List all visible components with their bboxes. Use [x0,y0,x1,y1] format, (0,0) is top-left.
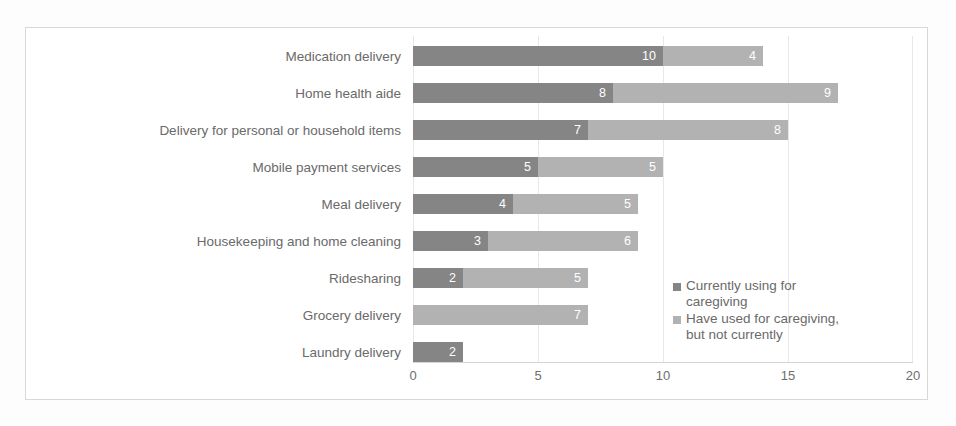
legend-label: Have used for caregiving, but not curren… [686,311,861,343]
chart-legend: Currently using for caregiving Have used… [673,278,873,344]
bar-stack: 2 [413,342,463,362]
bar-row: Home health aide 8 9 [413,83,913,103]
bar-value-label: 8 [599,87,613,100]
bar-value-label: 5 [649,161,663,174]
bar-stack: 10 4 [413,46,763,66]
x-tick-label-0: 0 [409,368,416,383]
legend-swatch-icon [673,283,681,291]
bar-segment-currently-using[interactable]: 7 [413,120,588,140]
bar-stack: 5 5 [413,157,663,177]
bar-row: Medication delivery 10 4 [413,46,913,66]
bar-segment-have-used[interactable]: 9 [613,83,838,103]
bar-row: Mobile payment services 5 5 [413,157,913,177]
bar-segment-have-used[interactable]: 6 [488,231,638,251]
bar-segment-currently-using[interactable]: 8 [413,83,613,103]
bar-segment-have-used[interactable]: 5 [538,157,663,177]
bar-stack: 2 5 [413,268,588,288]
bar-value-label: 4 [749,50,763,63]
bar-segment-have-used[interactable]: 7 [413,305,588,325]
x-tick-label-20: 20 [906,368,920,383]
bar-value-label: 4 [499,198,513,211]
bar-value-label: 5 [524,161,538,174]
bar-value-label: 7 [574,124,588,137]
legend-item-currently-using[interactable]: Currently using for caregiving [673,278,873,310]
bar-stack: 8 9 [413,83,838,103]
bar-value-label: 9 [824,87,838,100]
bar-value-label: 5 [624,198,638,211]
bar-row: Housekeeping and home cleaning 3 6 [413,231,913,251]
bar-row: Delivery for personal or household items… [413,120,913,140]
bar-row: Meal delivery 4 5 [413,194,913,214]
bar-segment-currently-using[interactable]: 10 [413,46,663,66]
bar-segment-have-used[interactable]: 5 [463,268,588,288]
bar-stack: 7 [413,305,588,325]
category-label: Laundry delivery [302,345,401,360]
x-axis-line [413,362,913,363]
bar-stack: 4 5 [413,194,638,214]
legend-item-have-used[interactable]: Have used for caregiving, but not curren… [673,311,873,343]
bar-segment-currently-using[interactable]: 3 [413,231,488,251]
x-tick-label-10: 10 [656,368,670,383]
bar-value-label: 2 [449,272,463,285]
bar-segment-currently-using[interactable]: 4 [413,194,513,214]
bar-value-label: 8 [774,124,788,137]
bar-segment-have-used[interactable]: 5 [513,194,638,214]
bar-value-label: 5 [574,272,588,285]
legend-swatch-icon [673,316,681,324]
bar-stack: 3 6 [413,231,638,251]
bar-segment-currently-using[interactable]: 5 [413,157,538,177]
bar-value-label: 6 [624,235,638,248]
legend-label: Currently using for caregiving [686,278,861,310]
category-label: Ridesharing [329,271,401,286]
category-label: Housekeeping and home cleaning [197,234,401,249]
category-label: Meal delivery [321,197,401,212]
category-label: Home health aide [295,86,401,101]
bar-value-label: 3 [474,235,488,248]
x-tick-label-15: 15 [781,368,795,383]
x-tick-label-5: 5 [534,368,541,383]
category-label: Mobile payment services [252,160,401,175]
bar-value-label: 7 [574,309,588,322]
bar-stack: 7 8 [413,120,788,140]
bar-value-label: 10 [642,50,663,63]
chart-figure: 0 5 10 15 20 Medication delivery 10 4 Ho… [25,27,928,400]
category-label: Delivery for personal or household items [159,123,401,138]
bar-segment-have-used[interactable]: 4 [663,46,763,66]
category-label: Grocery delivery [303,308,401,323]
category-label: Medication delivery [285,49,401,64]
bar-segment-have-used[interactable]: 8 [588,120,788,140]
bar-value-label: 2 [449,346,463,359]
bar-segment-currently-using[interactable]: 2 [413,268,463,288]
bar-row: Laundry delivery 2 [413,342,913,362]
bar-segment-currently-using[interactable]: 2 [413,342,463,362]
